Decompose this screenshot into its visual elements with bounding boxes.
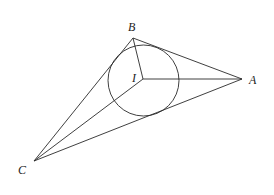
side-bc [34, 38, 133, 161]
side-ab [133, 38, 242, 79]
label-b: B [128, 20, 136, 34]
incircle [108, 45, 179, 116]
label-c: C [18, 163, 27, 177]
geometry-diagram: A B C I [0, 0, 274, 195]
side-ca [34, 79, 242, 161]
segment-ic [34, 79, 143, 161]
label-a: A [248, 73, 257, 87]
label-i: I [131, 71, 137, 85]
